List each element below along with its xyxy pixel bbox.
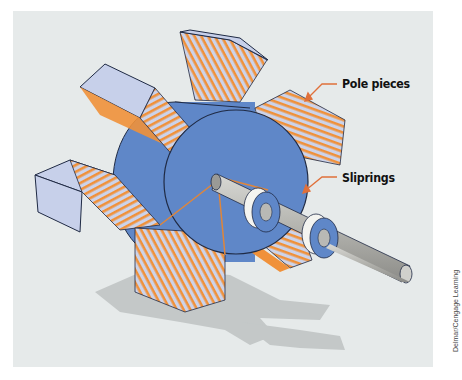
rotor-illustration [0,0,462,380]
image-credit: Delmar/Cengage Learning [452,270,459,352]
label-pole-pieces: Pole pieces [342,76,410,91]
figure: Pole pieces Sliprings Delmar/Cengage Lea… [0,0,462,380]
callout-arrow-pole-pieces [305,84,337,101]
pole-piece-top [180,30,268,102]
label-sliprings: Sliprings [342,170,395,185]
